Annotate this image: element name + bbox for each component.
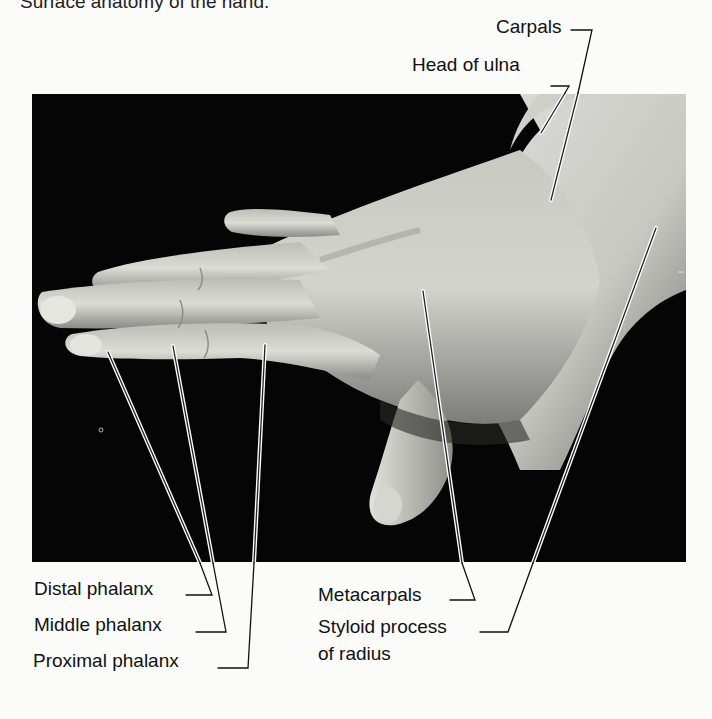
label-styloid-process: Styloid process bbox=[318, 616, 447, 638]
label-carpals: Carpals bbox=[496, 16, 561, 38]
label-head-of-ulna: Head of ulna bbox=[412, 54, 520, 76]
label-metacarpals: Metacarpals bbox=[318, 584, 422, 606]
hand-photograph bbox=[0, 0, 712, 719]
label-proximal-phalanx: Proximal phalanx bbox=[33, 650, 179, 672]
label-middle-phalanx: Middle phalanx bbox=[34, 614, 162, 636]
label-distal-phalanx: Distal phalanx bbox=[34, 578, 153, 600]
label-of-radius: of radius bbox=[318, 643, 391, 665]
